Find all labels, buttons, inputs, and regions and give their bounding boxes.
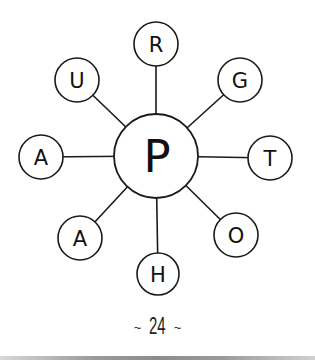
page-number-value: 24 [149,312,166,340]
node-letter: U [69,69,84,93]
node-bottom: H [137,253,179,295]
node-top-right: G [218,58,262,102]
page-bottom-edge [0,356,315,360]
node-letter: O [228,224,245,248]
center-letter: P [143,130,170,183]
node-letter: T [263,147,277,171]
center-node: P [114,114,198,198]
node-left: A [19,135,63,179]
node-letter: A [34,146,49,170]
tilde-left: ~ [134,320,142,335]
node-right: T [248,136,292,180]
node-letter: G [232,69,248,93]
letter-wheel-diagram: RGTOHAAU P [0,0,315,360]
node-top-left: U [55,58,99,102]
node-letter: A [73,227,88,251]
node-letter: H [150,263,166,287]
node-letter: R [149,33,164,57]
node-bottom-left: A [58,216,102,260]
page-number: ~ 24 ~ [0,312,315,340]
tilde-right: ~ [174,320,182,335]
node-top: R [134,22,178,66]
node-bottom-right: O [214,213,258,257]
